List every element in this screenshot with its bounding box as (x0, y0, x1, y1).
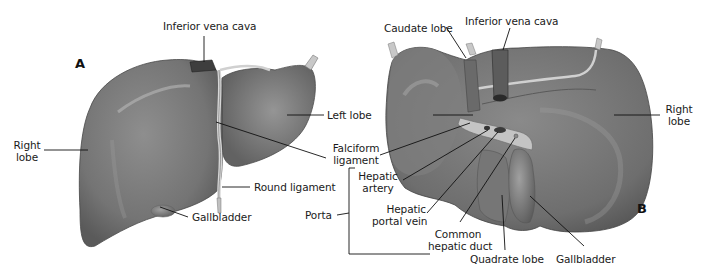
label-caudate-lobe: Caudate lobe (384, 22, 453, 34)
label-right-lobe-b-line2: lobe (664, 115, 694, 127)
liver-diagram: A B Inferior vena cava Right lobe Left l… (0, 0, 706, 276)
label-inferior-vena-cava-a: Inferior vena cava (163, 20, 256, 32)
label-common-hepatic-duct: Common hepatic duct (428, 228, 488, 252)
label-falciform-line1: Falciform (326, 142, 386, 154)
label-right-lobe-b-line1: Right (664, 103, 694, 115)
label-porta: Porta (305, 209, 332, 221)
liver-illustration (0, 0, 706, 276)
label-falciform-ligament: Falciform ligament (326, 142, 386, 166)
panel-label-b: B (637, 201, 647, 216)
label-left-lobe: Left lobe (327, 109, 372, 121)
label-quadrate-lobe: Quadrate lobe (470, 253, 544, 265)
label-right-lobe-a-line1: Right (10, 139, 44, 151)
label-gallbladder-a: Gallbladder (192, 211, 251, 223)
label-hepatic-portal-vein: Hepatic portal vein (372, 203, 426, 227)
label-common-hepatic-duct-line2: hepatic duct (428, 240, 488, 252)
label-hepatic-artery-line2: artery (356, 182, 400, 194)
label-hepatic-portal-vein-line2: portal vein (372, 215, 426, 227)
label-hepatic-artery-line1: Hepatic (356, 170, 400, 182)
label-right-lobe-a-line2: lobe (10, 151, 44, 163)
panel-label-a: A (75, 56, 85, 71)
label-hepatic-artery: Hepatic artery (356, 170, 400, 194)
label-gallbladder-b: Gallbladder (556, 253, 615, 265)
gallbladder-b-shape (509, 149, 535, 223)
label-common-hepatic-duct-line1: Common (428, 228, 488, 240)
label-right-lobe-b: Right lobe (664, 103, 694, 127)
left-lobe-a-shape (222, 65, 315, 166)
label-right-lobe-a: Right lobe (10, 139, 44, 163)
label-inferior-vena-cava-b: Inferior vena cava (465, 15, 558, 27)
label-round-ligament: Round ligament (254, 181, 336, 193)
label-falciform-line2: ligament (326, 154, 386, 166)
label-hepatic-portal-vein-line1: Hepatic (372, 203, 426, 215)
